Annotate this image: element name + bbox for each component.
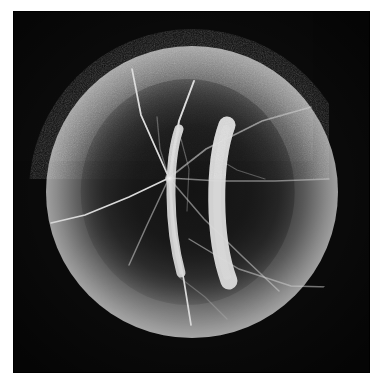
plate-caption — [0, 0, 1, 1]
outer-dark-annulus — [29, 29, 355, 355]
image-canvas — [0, 0, 384, 390]
vessel-convergence-node — [165, 174, 174, 183]
photographic-plate — [13, 11, 370, 373]
specimen-sphere — [29, 29, 355, 355]
